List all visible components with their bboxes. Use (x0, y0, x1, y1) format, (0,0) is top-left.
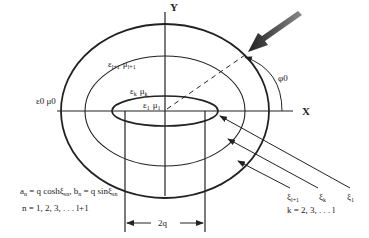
xi-l1-label: ξl+1 (287, 192, 299, 203)
incident-wave-arrow-icon (248, 11, 302, 52)
layer-k-label: εkμk (130, 86, 148, 97)
leader-xi-k (228, 139, 318, 188)
xi-k-label: ξk (319, 192, 326, 203)
elliptical-layered-cylinder-diagram: X Y 2q φ0 ε0 μ0 εl+1μl+1 εkμk ε1μ1 ξl+1 … (0, 0, 369, 238)
semi-axes-equation: an = q coshξsn, bn = q sinξsn (20, 186, 117, 197)
leader-xi-l1 (238, 161, 290, 188)
n-range-label: n = 1, 2, 3, . . . l+1 (22, 203, 89, 213)
interfocal-distance-label: 2q (158, 218, 168, 228)
k-range-label: k = 2, 3, . . . l (287, 205, 336, 215)
outer-medium-label: ε0 μ0 (36, 96, 56, 106)
xi-1-label: ξ1 (347, 192, 354, 203)
leader-xi-1 (220, 116, 350, 188)
y-axis-label: Y (170, 1, 178, 13)
core-label: ε1μ1 (143, 100, 161, 111)
incidence-angle-label: φ0 (278, 73, 288, 83)
x-axis-label: X (302, 105, 310, 117)
